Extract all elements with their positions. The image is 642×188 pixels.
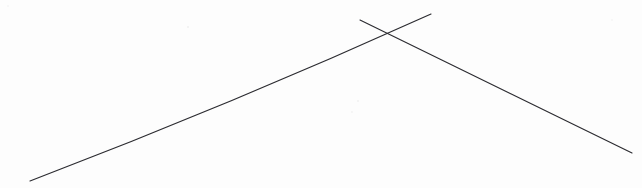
page-background — [0, 0, 642, 188]
scanned-page — [0, 0, 642, 188]
line-drawing-canvas — [0, 0, 642, 188]
